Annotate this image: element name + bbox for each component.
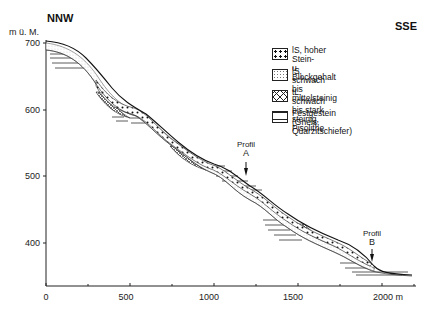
profile-b-letter: B	[359, 238, 385, 247]
y-tick-700: 700	[10, 38, 40, 48]
y-axis-unit: m ü. M.	[9, 28, 39, 37]
x-tick-1000: 1000	[199, 292, 219, 302]
direction-sse: SSE	[395, 20, 417, 32]
x-tick-500: 500	[118, 292, 133, 302]
y-tick-400: 400	[10, 238, 40, 248]
y-tick-500: 500	[10, 171, 40, 181]
x-tick-1500: 1500	[283, 292, 303, 302]
legend-1-line1: lS, hoher Stein-	[292, 46, 336, 64]
profile-a-arrow	[244, 168, 248, 176]
surface-profile-line	[46, 41, 412, 275]
y-tick-600: 600	[10, 105, 40, 115]
direction-nnw: NNW	[47, 12, 73, 24]
dots-pattern-swatch	[272, 48, 288, 60]
x-tick-2000: 2000 m	[373, 292, 403, 302]
horizontal-lines-swatch	[272, 111, 288, 123]
crosshatch-pattern-swatch	[272, 90, 288, 102]
cross-section-diagram	[0, 0, 429, 310]
profile-b-label: Profil B	[359, 229, 385, 247]
profile-a-label: Profil A	[233, 140, 259, 158]
stipple-pattern-swatch	[272, 69, 288, 81]
legend-4-line2: (Gneis, Quarzitschiefer)	[292, 118, 352, 136]
axes	[43, 40, 416, 286]
profile-b-arrow	[370, 254, 374, 262]
profile-a-letter: A	[233, 149, 259, 158]
bedrock-hatching	[50, 50, 408, 275]
x-tick-0: 0	[43, 292, 48, 302]
